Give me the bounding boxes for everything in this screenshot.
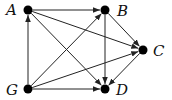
node-g — [24, 85, 33, 94]
node-b — [101, 6, 110, 15]
node-label-a: A — [4, 1, 17, 19]
edges-group — [28, 10, 140, 89]
node-c — [139, 46, 148, 55]
node-label-c: C — [153, 42, 165, 60]
node-label-g: G — [6, 81, 18, 99]
directed-graph-diagram: ABCDG — [0, 0, 172, 100]
node-a — [24, 6, 33, 15]
node-label-b: B — [116, 2, 128, 20]
node-label-d: D — [115, 81, 128, 99]
nodes-group — [24, 6, 148, 94]
node-d — [101, 85, 110, 94]
